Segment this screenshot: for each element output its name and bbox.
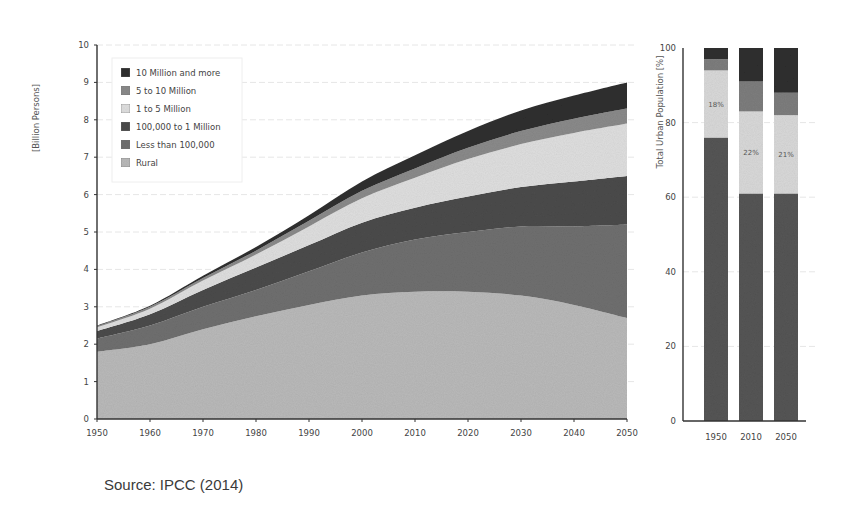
- legend-swatch-icon: [121, 122, 130, 131]
- bar-segment: [739, 48, 763, 82]
- area-x-tick-label: 2010: [404, 428, 426, 438]
- legend-swatch-icon: [121, 158, 130, 167]
- area-x-tick-label: 1950: [86, 428, 108, 438]
- area-x-tick-label: 1990: [298, 428, 320, 438]
- area-y-tick-label: 4: [84, 264, 89, 274]
- legend-label: Less than 100,000: [136, 140, 215, 150]
- legend-label: 5 to 10 Million: [136, 86, 196, 96]
- area-x-tick-label: 2050: [616, 428, 638, 438]
- legend-item: Rural: [121, 158, 158, 168]
- figure: 0123456789101950196019701980199020002010…: [0, 0, 858, 524]
- bar-y-tick-label: 60: [665, 192, 676, 202]
- area-y-tick-label: 5: [84, 227, 89, 237]
- bar-chart: 02040608010019502010205018%22%21% Total …: [655, 43, 815, 442]
- bar-x-tick-label: 2050: [775, 432, 797, 442]
- legend-item: 10 Million and more: [121, 68, 220, 78]
- area-x-tick-label: 1960: [139, 428, 161, 438]
- area-y-tick-label: 2: [84, 339, 89, 349]
- area-y-tick-label: 3: [84, 302, 89, 312]
- bar-segment: [739, 82, 763, 112]
- area-x-tick-label: 1980: [245, 428, 267, 438]
- bar-percent-label: 22%: [743, 149, 759, 157]
- legend-item: Less than 100,000: [121, 140, 215, 150]
- bar-segment: [704, 48, 728, 59]
- legend-label: 100,000 to 1 Million: [136, 122, 221, 132]
- legend-swatch-icon: [121, 68, 130, 77]
- legend-swatch-icon: [121, 104, 130, 113]
- area-x-tick-label: 1970: [192, 428, 214, 438]
- bar-percent-label: 21%: [778, 151, 794, 159]
- bar-y-axis-label: Total Urban Population [%]: [655, 55, 665, 169]
- area-x-tick-label: 2040: [563, 428, 585, 438]
- area-y-tick-label: 7: [84, 152, 89, 162]
- area-y-tick-label: 8: [84, 115, 89, 125]
- area-y-axis-label: [Billion Persons]: [31, 84, 41, 152]
- legend-label: Rural: [136, 158, 158, 168]
- bar-x-tick-label: 1950: [705, 432, 727, 442]
- area-x-tick-label: 2000: [351, 428, 373, 438]
- bar-x-tick-label: 2010: [740, 432, 762, 442]
- area-y-tick-label: 0: [84, 414, 89, 424]
- area-y-tick-label: 9: [84, 77, 89, 87]
- bar-percent-label: 18%: [708, 101, 724, 109]
- area-y-tick-label: 6: [84, 190, 89, 200]
- legend-swatch-icon: [121, 140, 130, 149]
- bar-segment: [704, 138, 728, 421]
- area-chart: 0123456789101950196019701980199020002010…: [31, 40, 638, 438]
- legend-item: 100,000 to 1 Million: [121, 122, 221, 132]
- bar-y-tick-label: 80: [665, 118, 676, 128]
- legend-label: 10 Million and more: [136, 68, 220, 78]
- bar-segment: [774, 193, 798, 421]
- area-x-tick-label: 2020: [457, 428, 479, 438]
- bar-y-tick-label: 20: [665, 341, 676, 351]
- area-y-tick-label: 1: [84, 377, 89, 387]
- source-caption: Source: IPCC (2014): [104, 476, 243, 493]
- area-y-tick-label: 10: [78, 40, 89, 50]
- bar-y-tick-label: 100: [660, 43, 676, 53]
- bar-segment: [739, 193, 763, 421]
- legend-label: 1 to 5 Million: [136, 104, 191, 114]
- bar-y-tick-label: 0: [671, 416, 676, 426]
- bar-y-tick-label: 40: [665, 267, 676, 277]
- area-x-tick-label: 2030: [510, 428, 532, 438]
- area-legend: 10 Million and more5 to 10 Million1 to 5…: [112, 58, 242, 182]
- bar-segment: [774, 93, 798, 115]
- legend-swatch-icon: [121, 86, 130, 95]
- bar-segment: [774, 48, 798, 93]
- bar-segment: [704, 59, 728, 70]
